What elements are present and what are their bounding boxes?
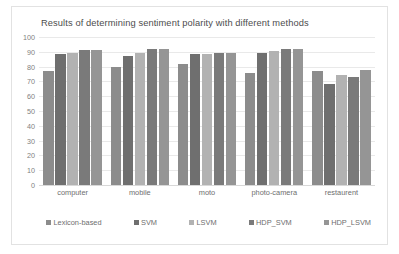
bar (91, 50, 102, 185)
legend-label: HDP_LSVM (331, 218, 371, 227)
x-label-moto: moto (173, 188, 240, 197)
plot-area (39, 37, 375, 185)
bar-group-restaurent (308, 37, 375, 185)
gridline-0 (39, 185, 375, 186)
legend-item-HDP_SVM[interactable]: HDP_SVM (249, 218, 292, 227)
bar-groups (39, 37, 375, 185)
legend-swatch-icon (134, 220, 139, 225)
bar (324, 84, 335, 185)
legend-swatch-icon (46, 220, 51, 225)
y-tick-label-20: 20 (27, 151, 35, 160)
legend-label: SVM (141, 218, 157, 227)
legend-label: HDP_SVM (256, 218, 292, 227)
y-tick-label-40: 40 (27, 121, 35, 130)
bar (159, 49, 170, 185)
bar (43, 71, 54, 185)
bar (269, 51, 280, 185)
y-tick-label-80: 80 (27, 62, 35, 71)
legend-item-SVM[interactable]: SVM (134, 218, 158, 227)
x-label-mobile: mobile (106, 188, 173, 197)
chart-title: Results of determining sentiment polarit… (41, 18, 371, 28)
legend-swatch-icon (324, 220, 329, 225)
y-axis-tick-labels: 1009080706050403020100 (12, 37, 37, 185)
bar (312, 71, 323, 185)
bar (360, 70, 371, 185)
legend-label: LSVM (196, 218, 216, 227)
y-tick-label-70: 70 (27, 77, 35, 86)
y-tick-label-50: 50 (27, 107, 35, 116)
legend-label: Lexicon-based (54, 218, 102, 227)
bar (281, 49, 292, 185)
y-tick-label-30: 30 (27, 136, 35, 145)
bar (123, 56, 134, 186)
bar (190, 54, 201, 185)
bar (111, 67, 122, 185)
bar-group-moto (173, 37, 240, 185)
bar (226, 53, 237, 185)
bar (257, 53, 268, 185)
y-tick-label-60: 60 (27, 92, 35, 101)
x-label-computer: computer (39, 188, 106, 197)
y-tick-label-90: 90 (27, 47, 35, 56)
chart-card: Results of determining sentiment polarit… (11, 6, 388, 245)
bar (245, 73, 256, 185)
bar (348, 77, 359, 185)
bar (336, 75, 347, 185)
x-label-photo-camera: photo-camera (241, 188, 308, 197)
legend-item-HDP_LSVM[interactable]: HDP_LSVM (324, 218, 371, 227)
legend-swatch-icon (249, 220, 254, 225)
x-label-restaurent: restaurent (308, 188, 375, 197)
bar-group-photo-camera (241, 37, 308, 185)
bar (135, 53, 146, 185)
chart-legend: Lexicon-basedSVMLSVMHDP_SVMHDP_LSVM (46, 218, 371, 227)
bar (293, 49, 304, 185)
bar (214, 53, 225, 185)
y-tick-label-100: 100 (23, 33, 35, 42)
bar-group-mobile (106, 37, 173, 185)
bar (67, 53, 78, 185)
legend-item-LSVM[interactable]: LSVM (189, 218, 217, 227)
legend-swatch-icon (189, 220, 194, 225)
bar (202, 54, 213, 185)
legend-item-Lexicon-based[interactable]: Lexicon-based (46, 218, 102, 227)
bar (178, 64, 189, 185)
bar (55, 54, 66, 185)
bar (147, 49, 158, 185)
bar (79, 50, 90, 185)
x-axis-category-labels: computermobilemotophoto-camerarestaurent (39, 188, 375, 197)
y-tick-label-10: 10 (27, 166, 35, 175)
y-tick-label-0: 0 (31, 181, 35, 190)
bar-group-computer (39, 37, 106, 185)
